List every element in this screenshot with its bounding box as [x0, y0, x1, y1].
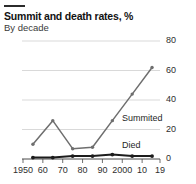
- x-axis-tick-80: 80: [78, 165, 88, 175]
- y-axis-tick-20: 20: [166, 124, 188, 134]
- x-axis-tick-70: 70: [58, 165, 68, 175]
- x-axis-tick-2000: 2000: [112, 165, 132, 175]
- y-axis-tick-0: 0: [166, 153, 188, 163]
- y-axis-tick-80: 80: [166, 35, 188, 45]
- y-axis-tick-60: 60: [166, 65, 188, 75]
- x-axis-tick-90: 90: [97, 165, 107, 175]
- y-axis-tick-40: 40: [166, 94, 188, 104]
- x-axis-tick-60: 60: [38, 165, 48, 175]
- series-label-died: Died: [122, 140, 141, 150]
- x-axis-tick-10: 10: [137, 165, 147, 175]
- x-axis-tick-1950: 1950: [13, 165, 33, 175]
- chart-container: Summit and death rates, % By decade 80 6…: [0, 0, 196, 184]
- series-label-summited: Summited: [122, 113, 163, 123]
- x-axis-tick-19: 19: [155, 165, 165, 175]
